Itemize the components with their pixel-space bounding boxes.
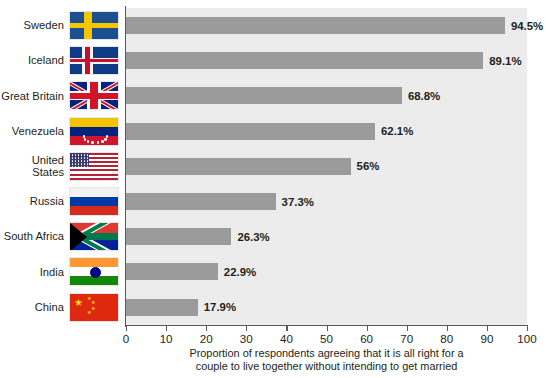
bar-russia bbox=[126, 193, 276, 210]
bar-sweden bbox=[126, 17, 505, 34]
flag-south-africa bbox=[69, 222, 119, 251]
flag-russia bbox=[69, 187, 119, 216]
x-tick-mark bbox=[166, 326, 167, 331]
flag-iceland bbox=[69, 46, 119, 75]
x-tick-mark bbox=[487, 326, 488, 331]
chart-row: South Africa26.3% bbox=[0, 219, 546, 254]
x-tick-label: 40 bbox=[280, 332, 293, 345]
x-tick-mark bbox=[447, 326, 448, 331]
caption-line-2: couple to live together without intendin… bbox=[196, 360, 458, 372]
x-tick-label: 100 bbox=[517, 332, 536, 345]
category-label-china: China bbox=[0, 290, 64, 325]
chart-row: Iceland89.1% bbox=[0, 43, 546, 78]
category-label-india: India bbox=[0, 254, 64, 289]
chart-row: Russia37.3% bbox=[0, 184, 546, 219]
flag-united-states bbox=[69, 152, 119, 181]
flag-venezuela bbox=[69, 117, 119, 146]
x-tick-mark bbox=[367, 326, 368, 331]
flag-sweden bbox=[69, 11, 119, 40]
bar-value-label-south-africa: 26.3% bbox=[237, 228, 269, 245]
chart-row: Great Britain68.8% bbox=[0, 78, 546, 113]
chart-row: India22.9% bbox=[0, 254, 546, 289]
category-label-great-britain: Great Britain bbox=[0, 78, 64, 113]
bar-venezuela bbox=[126, 123, 375, 140]
x-tick-mark bbox=[126, 326, 127, 331]
category-label-venezuela: Venezuela bbox=[0, 114, 64, 149]
bar-united-states bbox=[126, 158, 351, 175]
chart-row: United States56% bbox=[0, 149, 546, 184]
bar-value-label-great-britain: 68.8% bbox=[408, 87, 440, 104]
x-tick-mark bbox=[327, 326, 328, 331]
bar-value-label-iceland: 89.1% bbox=[489, 52, 521, 69]
bar-china bbox=[126, 299, 198, 316]
bar-value-label-sweden: 94.5% bbox=[511, 17, 543, 34]
x-tick-mark bbox=[206, 326, 207, 331]
horizontal-bar-chart: Sweden94.5%Iceland89.1%Great Britain68.8… bbox=[0, 0, 546, 378]
category-label-south-africa: South Africa bbox=[0, 219, 64, 254]
x-tick-label: 10 bbox=[160, 332, 173, 345]
x-tick-mark bbox=[286, 326, 287, 331]
x-axis-caption: Proportion of respondents agreeing that … bbox=[126, 347, 527, 374]
category-label-sweden: Sweden bbox=[0, 8, 64, 43]
bar-great-britain bbox=[126, 87, 402, 104]
x-tick-mark bbox=[407, 326, 408, 331]
x-tick-label: 30 bbox=[240, 332, 253, 345]
x-tick-label: 80 bbox=[440, 332, 453, 345]
chart-row: China★★★★★17.9% bbox=[0, 290, 546, 325]
x-tick-label: 20 bbox=[200, 332, 213, 345]
bar-value-label-china: 17.9% bbox=[204, 299, 236, 316]
x-tick-label: 50 bbox=[320, 332, 333, 345]
x-tick-label: 90 bbox=[480, 332, 493, 345]
bar-value-label-russia: 37.3% bbox=[282, 193, 314, 210]
bar-south-africa bbox=[126, 228, 231, 245]
x-tick-label: 70 bbox=[400, 332, 413, 345]
category-label-russia: Russia bbox=[0, 184, 64, 219]
bar-value-label-united-states: 56% bbox=[357, 158, 380, 175]
category-label-united-states: United States bbox=[0, 149, 64, 184]
x-tick-mark bbox=[246, 326, 247, 331]
flag-great-britain bbox=[69, 81, 119, 110]
category-label-iceland: Iceland bbox=[0, 43, 64, 78]
flag-china: ★★★★★ bbox=[69, 293, 119, 322]
bar-value-label-india: 22.9% bbox=[224, 263, 256, 280]
bar-value-label-venezuela: 62.1% bbox=[381, 123, 413, 140]
chart-row: Sweden94.5% bbox=[0, 8, 546, 43]
chart-row: Venezuela62.1% bbox=[0, 114, 546, 149]
x-tick-label: 60 bbox=[360, 332, 373, 345]
bar-iceland bbox=[126, 52, 483, 69]
x-tick-mark bbox=[527, 326, 528, 331]
flag-india bbox=[69, 257, 119, 286]
x-tick-label: 0 bbox=[123, 332, 129, 345]
caption-line-1: Proportion of respondents agreeing that … bbox=[189, 347, 463, 359]
bar-india bbox=[126, 263, 218, 280]
